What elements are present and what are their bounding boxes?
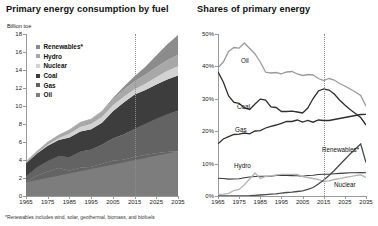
legend-item-label: Gas xyxy=(44,82,56,89)
series-label-oil: Oil xyxy=(241,57,249,64)
x-tick-label: 1975 xyxy=(232,199,245,205)
legend-swatch-icon xyxy=(36,74,40,78)
series-label-coal: Coal xyxy=(237,103,250,110)
series-label-renewables: Renewables* xyxy=(322,146,359,153)
legend-item-label: Oil xyxy=(44,91,53,98)
legend-item-coal[interactable]: Coal xyxy=(36,71,83,81)
y-tick-label: 40% xyxy=(189,63,214,69)
y-tick-label: 2 xyxy=(4,175,22,181)
legend-swatch-icon xyxy=(36,93,40,97)
series-label-hydro: Hydro xyxy=(234,162,251,169)
line-oil xyxy=(218,43,366,106)
forecast-divider-right xyxy=(324,34,325,196)
x-tick-label: 2025 xyxy=(338,199,351,205)
x-axis-left xyxy=(26,196,178,197)
series-label-nuclear: Nuclear xyxy=(334,181,356,188)
x-tick-label: 2015 xyxy=(128,199,141,205)
legend-item-renewables[interactable]: Renewables* xyxy=(36,42,83,52)
x-tick-label: 1985 xyxy=(63,199,76,205)
plot-area-right: Oil Coal Gas Hydro Renewables* Nuclear xyxy=(218,34,366,196)
x-tick-label: 2005 xyxy=(296,199,309,205)
y-tick-label: 6 xyxy=(4,139,22,145)
legend-item-nuclear[interactable]: Nuclear xyxy=(36,61,83,71)
x-tick-label: 2005 xyxy=(106,199,119,205)
legend: Renewables* Hydro Nuclear Coal Gas Oil xyxy=(36,42,83,100)
footnote: *Renewables includes wind, solar, geothe… xyxy=(5,215,155,220)
forecast-divider-left xyxy=(135,34,136,196)
legend-item-oil[interactable]: Oil xyxy=(36,90,83,100)
y-tick-label: 18 xyxy=(4,31,22,37)
legend-item-gas[interactable]: Gas xyxy=(36,80,83,90)
legend-item-hydro[interactable]: Hydro xyxy=(36,52,83,62)
chart-page: Primary energy consumption by fuel Billi… xyxy=(0,0,378,226)
x-axis-right xyxy=(218,196,366,197)
chart-primary-energy-consumption: 18 16 14 12 10 8 6 4 2 0 xyxy=(0,30,186,202)
legend-swatch-icon xyxy=(36,45,40,49)
x-tick-label: 2015 xyxy=(317,199,330,205)
axis-unit-label-left: Billion toe xyxy=(7,23,31,29)
x-tick-label: 1995 xyxy=(275,199,288,205)
legend-item-label: Renewables* xyxy=(44,43,83,50)
x-tick-label: 1995 xyxy=(84,199,97,205)
y-tick-label: 8 xyxy=(4,121,22,127)
y-tick-label: 20% xyxy=(189,128,214,134)
legend-swatch-icon xyxy=(36,83,40,87)
page-title-right: Shares of primary energy xyxy=(197,4,310,14)
legend-swatch-icon xyxy=(36,54,40,58)
y-tick-label: 50% xyxy=(189,31,214,37)
legend-item-label: Coal xyxy=(44,72,58,79)
legend-swatch-icon xyxy=(36,64,40,68)
y-tick-label: 30% xyxy=(189,96,214,102)
legend-item-label: Hydro xyxy=(44,53,62,60)
x-tick-label: 1965 xyxy=(19,199,32,205)
x-tick-label: 1975 xyxy=(41,199,54,205)
page-title-left: Primary energy consumption by fuel xyxy=(6,4,169,14)
y-tick-label: 0% xyxy=(189,193,214,199)
y-tick-label: 14 xyxy=(4,67,22,73)
x-tick-label: 1965 xyxy=(211,199,224,205)
x-tick-label: 2025 xyxy=(150,199,163,205)
y-tick-label: 12 xyxy=(4,85,22,91)
x-tick-label: 1985 xyxy=(254,199,267,205)
y-tick-label: 10% xyxy=(189,161,214,167)
x-tick-label: 2035 xyxy=(359,199,372,205)
y-tick-label: 10 xyxy=(4,103,22,109)
chart-shares-of-primary-energy: 50% 40% 30% 20% 10% 0% xyxy=(189,30,378,202)
y-tick-label: 4 xyxy=(4,157,22,163)
x-tick-label: 2035 xyxy=(171,199,184,205)
series-label-gas: Gas xyxy=(235,126,247,133)
y-tick-label: 16 xyxy=(4,49,22,55)
legend-item-label: Nuclear xyxy=(44,62,67,69)
